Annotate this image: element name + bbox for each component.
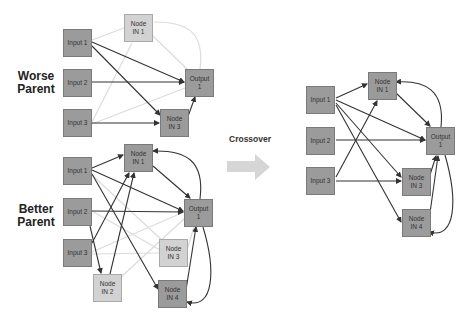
child-node-in3: Input 3 xyxy=(306,167,335,195)
crossover-label: Crossover xyxy=(229,134,271,144)
crossover-arrow-icon xyxy=(227,154,270,180)
better-parent-node-n2: Node IN 2 xyxy=(93,274,122,302)
child-node-n1: Node IN 1 xyxy=(368,72,397,100)
better-parent-node-in2: Input 2 xyxy=(63,198,92,226)
better-parent-node-n1: Node IN 1 xyxy=(124,144,153,172)
worse-parent-node-out: Output 1 xyxy=(185,69,214,97)
better-parent-node-n4: Node IN 4 xyxy=(158,280,187,308)
child-node-in1: Input 1 xyxy=(306,86,335,114)
child-node-out: Output 1 xyxy=(426,127,455,155)
better-parent-node-out: Output 1 xyxy=(184,199,213,227)
better-parent-node-in1: Input 1 xyxy=(63,157,92,185)
worse-parent-node-n1: Node IN 1 xyxy=(124,14,153,42)
better-parent-node-n3: Node IN 3 xyxy=(159,239,188,267)
child-node-n3: Node IN 3 xyxy=(402,168,431,196)
worse-parent-node-in1: Input 1 xyxy=(63,29,92,57)
child-edges xyxy=(336,82,453,233)
worse-parent-node-n3: Node IN 3 xyxy=(160,109,189,137)
child-node-n4: Node IN 4 xyxy=(402,209,431,237)
worse-parent-node-in2: Input 2 xyxy=(63,69,92,97)
worse-parent-node-in3: Input 3 xyxy=(63,109,92,137)
better-parent-node-in3: Input 3 xyxy=(63,239,92,267)
better-parent-label: Better Parent xyxy=(14,203,58,229)
worse-parent-label: Worse Parent xyxy=(14,70,58,96)
child-node-in2: Input 2 xyxy=(306,127,335,155)
